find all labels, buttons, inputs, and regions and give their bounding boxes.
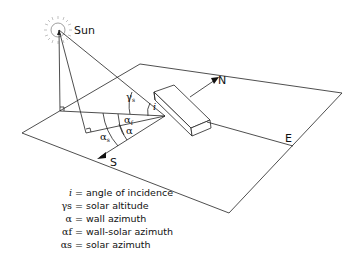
legend-row-altitude: γs = solar altitude [46,199,173,212]
north-line [190,80,215,97]
south-label: S [110,156,117,169]
sun-projection-line [60,111,165,116]
sun-vertical-line [59,30,60,111]
sun-to-wall-normal-line [59,30,86,133]
incidence-arc [148,103,150,116]
legend-row-solar-azimuth: αs = solar azimuth [46,238,173,251]
legend-row-wall-solar-azimuth: αf = wall-solar azimuth [46,225,173,238]
sun-icon [44,16,72,44]
wall-azimuth-symbol: α [126,125,133,136]
right-angle-marker [86,128,91,132]
altitude-symbol: γs [126,91,135,103]
east-label: E [285,132,292,145]
east-line [207,122,293,146]
legend-row-incidence: i = angle of incidence [46,186,173,199]
south-arrow-icon [97,152,106,159]
sun-ray-line [59,30,165,116]
solar-azimuth-symbol: αs [100,131,110,143]
legend-row-wall-azimuth: α = wall azimuth [46,212,173,225]
legend: i = angle of incidence γs = solar altitu… [46,186,173,251]
wall-block [154,85,211,136]
north-label: N [218,74,226,87]
incidence-symbol: i [153,101,156,112]
sun-label: Sun [74,24,95,37]
